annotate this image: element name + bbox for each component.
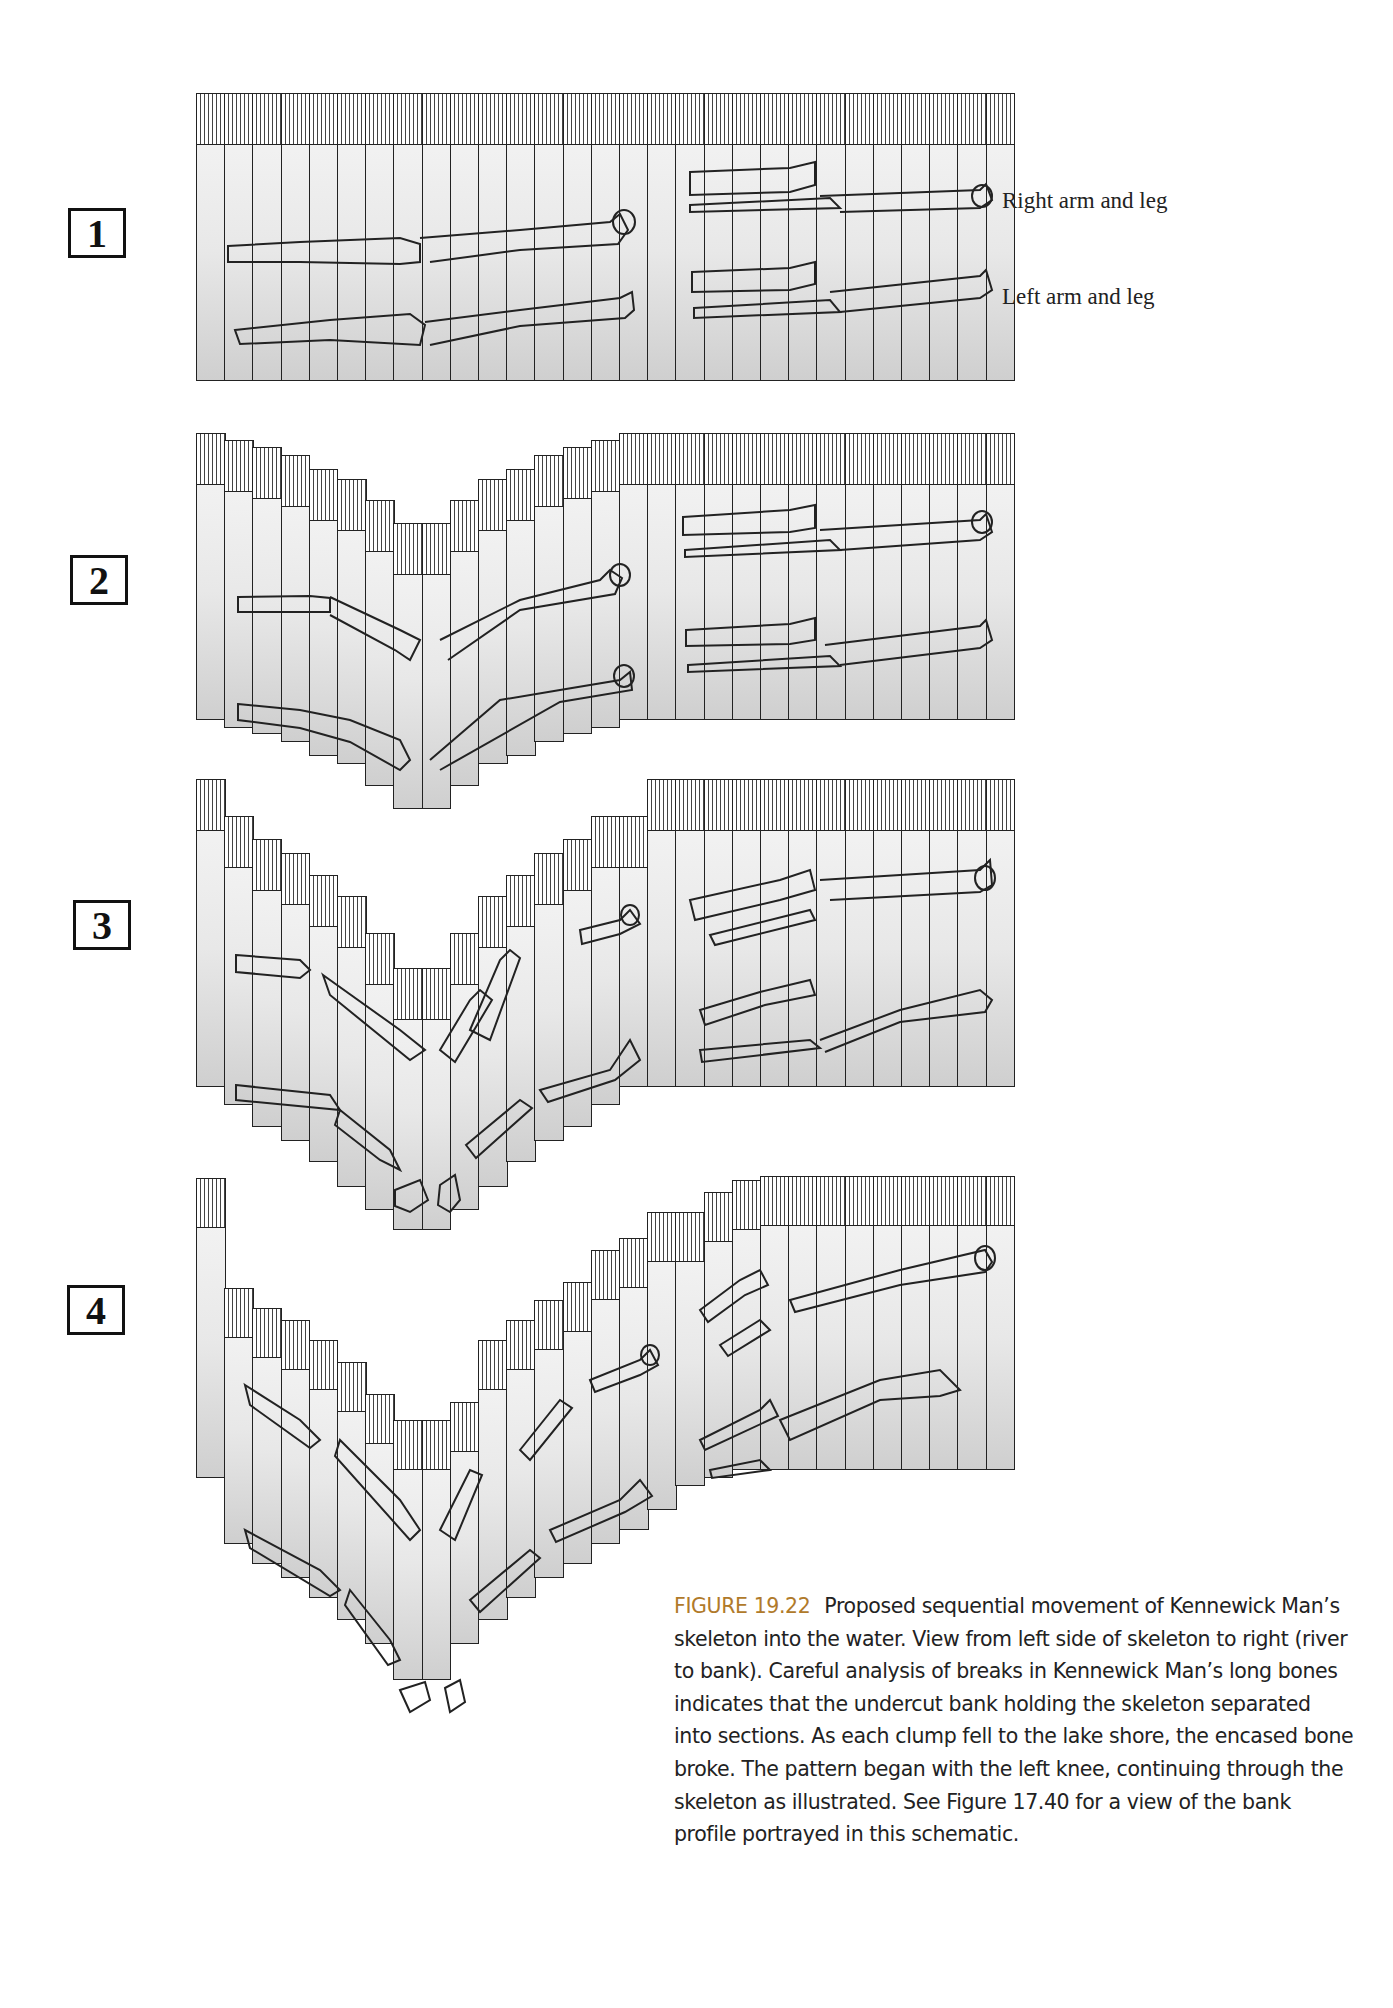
bank-section-column [788, 93, 818, 381]
bank-section-column [337, 896, 367, 1187]
bank-section-column [816, 1176, 846, 1470]
step-number-1: 1 [68, 208, 126, 258]
bank-section-column [675, 779, 705, 1087]
bank-section-column [196, 93, 226, 381]
bank-section-column [986, 779, 1016, 1087]
bank-section-column [422, 93, 452, 381]
bank-section-column [478, 93, 508, 381]
bank-section-column [224, 1288, 254, 1544]
sediment-hatch [507, 1321, 535, 1370]
bank-section-column [365, 933, 395, 1210]
bank-section-column [704, 779, 734, 1087]
sediment-hatch [564, 1283, 592, 1332]
bank-section-column [309, 93, 339, 381]
bank-section-column [422, 968, 452, 1230]
sediment-hatch [479, 897, 507, 948]
sediment-hatch [958, 434, 986, 485]
sediment-hatch [902, 434, 930, 485]
sediment-hatch [620, 434, 648, 485]
sediment-hatch [394, 524, 422, 575]
bank-section-column [647, 433, 677, 720]
sediment-hatch [930, 1177, 958, 1226]
sediment-hatch [958, 94, 986, 145]
bank-section-column [732, 779, 762, 1087]
bank-section-column [760, 433, 790, 720]
sediment-hatch [282, 456, 310, 507]
sediment-hatch [705, 780, 733, 831]
bank-section-column [422, 523, 452, 809]
bank-section-column [365, 93, 395, 381]
sediment-hatch [423, 969, 451, 1020]
bank-section-column [393, 523, 423, 809]
sediment-hatch [733, 94, 761, 145]
sediment-hatch [310, 470, 338, 521]
bank-section-column [534, 455, 564, 742]
bank-section-column [252, 1308, 282, 1564]
sediment-hatch [648, 780, 676, 831]
sediment-hatch [366, 934, 394, 985]
sediment-hatch [846, 780, 874, 831]
sediment-hatch [253, 840, 281, 891]
bank-section-column [281, 1320, 311, 1578]
bank-section-column [506, 1320, 536, 1598]
bank-section-column [619, 1238, 649, 1530]
sediment-hatch [761, 94, 789, 145]
sediment-hatch [451, 501, 479, 552]
bank-section-column [506, 469, 536, 756]
bank-section-column [957, 779, 987, 1087]
bank-section-column [450, 933, 480, 1210]
sediment-hatch [225, 817, 253, 868]
sediment-hatch [761, 434, 789, 485]
bank-section-column [732, 433, 762, 720]
bank-section-column [760, 779, 790, 1087]
bank-section-column [845, 779, 875, 1087]
sediment-hatch [930, 94, 958, 145]
bank-section-column [957, 1176, 987, 1470]
sediment-hatch [987, 434, 1015, 485]
step-number-2: 2 [70, 555, 128, 605]
bank-section-column [760, 93, 790, 381]
sediment-hatch [479, 1341, 507, 1390]
bank-section-column [563, 839, 593, 1127]
bank-section-column [704, 1192, 734, 1478]
sediment-hatch [479, 94, 507, 145]
bank-section-column [816, 433, 846, 720]
bank-section-column [281, 455, 311, 742]
bank-section-column [788, 433, 818, 720]
sediment-hatch [874, 94, 902, 145]
sediment-hatch [507, 94, 535, 145]
bank-section-column [647, 93, 677, 381]
bank-section-column [986, 93, 1016, 381]
sediment-hatch [930, 434, 958, 485]
sediment-hatch [676, 780, 704, 831]
bank-section-column [506, 875, 536, 1162]
bank-section-column [478, 1340, 508, 1620]
sediment-hatch [197, 94, 225, 145]
sediment-hatch [394, 94, 422, 145]
sediment-hatch [592, 441, 620, 492]
label-right-arm-and-leg: Right arm and leg [1002, 188, 1167, 214]
bank-section-column [929, 779, 959, 1087]
sediment-hatch [930, 780, 958, 831]
figure-caption: FIGURE 19.22Proposed sequential movement… [674, 1590, 1354, 1851]
sediment-hatch [282, 94, 310, 145]
sediment-hatch [592, 817, 620, 868]
sediment-hatch [648, 94, 676, 145]
sediment-hatch [564, 840, 592, 891]
bank-section-column [224, 440, 254, 728]
label-left-arm-and-leg: Left arm and leg [1002, 284, 1155, 310]
sediment-hatch [225, 441, 253, 492]
sediment-hatch [451, 934, 479, 985]
step-number-4: 4 [67, 1285, 125, 1335]
sediment-hatch [846, 94, 874, 145]
bank-section-column [873, 1176, 903, 1470]
bank-section-column [901, 779, 931, 1087]
sediment-hatch [338, 480, 366, 531]
sediment-hatch [874, 1177, 902, 1226]
bank-section-column [647, 779, 677, 1087]
bank-section-column [901, 1176, 931, 1470]
bank-section-column [563, 93, 593, 381]
sediment-hatch [761, 780, 789, 831]
sediment-hatch [789, 94, 817, 145]
sediment-hatch [620, 817, 648, 868]
